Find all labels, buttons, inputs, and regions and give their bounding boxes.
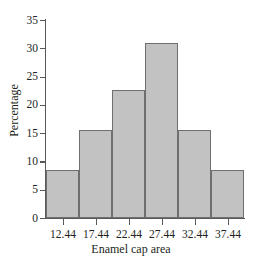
y-tick-label-wrap-0: 0 bbox=[10, 213, 38, 225]
histogram-figure: 0 5 10 15 20 25 30 35 12.44 17.44 22.44 … bbox=[0, 0, 262, 260]
plot-area bbox=[46, 20, 244, 218]
x-tick-1 bbox=[96, 219, 97, 225]
x-axis-line bbox=[45, 218, 245, 219]
y-tick-label-wrap-1: 5 bbox=[10, 184, 38, 196]
y-tick-label-0: 0 bbox=[12, 213, 38, 225]
histogram-bar bbox=[178, 130, 211, 218]
y-tick-label-5: 5 bbox=[12, 184, 38, 196]
y-tick-label-30: 30 bbox=[12, 43, 38, 55]
histogram-bar bbox=[46, 170, 79, 218]
x-tick-label-5: 37.44 bbox=[206, 228, 250, 240]
y-tick-label-wrap-7: 35 bbox=[10, 15, 38, 27]
histogram-bar bbox=[145, 43, 178, 218]
x-tick-4 bbox=[195, 219, 196, 225]
histogram-bar bbox=[79, 130, 112, 218]
histogram-bar bbox=[112, 90, 145, 218]
x-tick-0 bbox=[63, 219, 64, 225]
x-tick-5 bbox=[228, 219, 229, 225]
histogram-bar bbox=[211, 170, 244, 218]
x-axis-title: Enamel cap area bbox=[0, 243, 262, 256]
y-tick-0 bbox=[40, 218, 46, 219]
x-tick-2 bbox=[129, 219, 130, 225]
x-tick-3 bbox=[162, 219, 163, 225]
y-axis-title: Percentage bbox=[8, 61, 21, 161]
y-tick-label-35: 35 bbox=[12, 15, 38, 27]
y-tick-label-wrap-6: 30 bbox=[10, 43, 38, 55]
